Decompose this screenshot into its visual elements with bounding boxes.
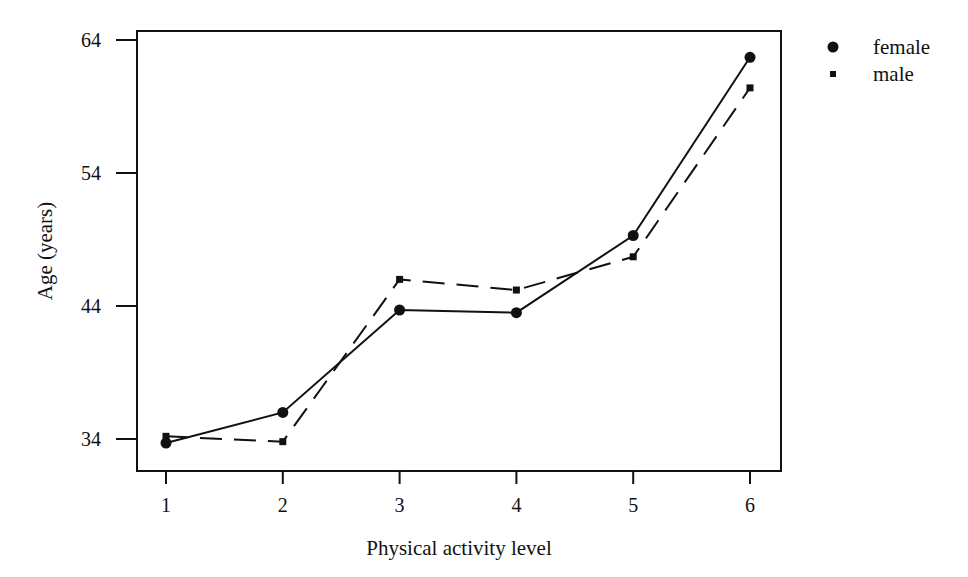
y-tick-label: 54 (81, 162, 101, 184)
data-point-female (511, 307, 522, 318)
data-point-male (396, 276, 403, 283)
y-axis-title: Age (years) (33, 202, 57, 301)
data-point-male (747, 84, 754, 91)
legend-label-male: male (873, 62, 914, 86)
data-point-female (394, 304, 405, 315)
data-point-male (513, 287, 520, 294)
y-tick-label: 44 (81, 295, 101, 317)
x-tick-label: 5 (628, 494, 638, 516)
series-group (161, 52, 756, 449)
data-point-female (277, 407, 288, 418)
x-tick-label: 2 (278, 494, 288, 516)
x-tick-label: 3 (395, 494, 405, 516)
y-tick-label: 34 (81, 428, 101, 450)
legend-marker-female (828, 42, 839, 53)
data-point-female (745, 52, 756, 63)
data-point-female (628, 230, 639, 241)
data-point-male (163, 433, 170, 440)
series-line-male (166, 88, 750, 442)
series-line-female (166, 57, 750, 443)
chart: 34445464 123456 Physical activity level … (0, 0, 968, 577)
x-tick-label: 6 (745, 494, 755, 516)
y-axis: 34445464 (81, 29, 137, 450)
legend-label-female: female (873, 35, 930, 59)
y-tick-label: 64 (81, 29, 101, 51)
x-tick-label: 1 (161, 494, 171, 516)
x-tick-label: 4 (511, 494, 521, 516)
plot-frame (137, 31, 781, 471)
data-point-male (630, 253, 637, 260)
legend-marker-male (830, 71, 836, 77)
x-axis-title: Physical activity level (366, 536, 552, 560)
legend: femalemale (828, 35, 931, 86)
data-point-male (279, 438, 286, 445)
x-axis: 123456 (161, 471, 755, 516)
